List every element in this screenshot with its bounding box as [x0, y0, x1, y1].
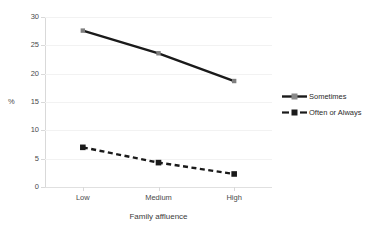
x-tick-mark	[234, 187, 235, 191]
data-point-marker	[232, 79, 236, 83]
legend-item-sometimes[interactable]: Sometimes	[282, 88, 383, 104]
y-tick-label-wrap: 0	[13, 183, 39, 191]
y-tick-label-wrap: 5	[13, 155, 39, 163]
x-tick-label: Low	[53, 193, 113, 202]
x-tick-mark	[83, 187, 84, 191]
y-tick-label: 30	[17, 13, 39, 21]
x-tick-label: High	[204, 193, 264, 202]
legend: Sometimes Often or Always	[282, 88, 383, 120]
y-tick-label-wrap: 30	[13, 13, 39, 21]
y-axis-title: %	[8, 98, 15, 106]
data-point-marker	[156, 160, 162, 166]
y-tick-label: 0	[17, 183, 39, 191]
x-axis-title: Family affluence	[0, 212, 317, 222]
x-tick-label: Medium	[129, 193, 189, 202]
y-tick-mark	[41, 187, 45, 188]
solid-line-marker-icon	[282, 91, 307, 102]
series-line-sometimes	[83, 31, 234, 81]
data-point-marker	[81, 28, 85, 32]
x-tick-mark	[159, 187, 160, 191]
plot-area	[45, 17, 272, 187]
y-tick-label-wrap: 10	[13, 126, 39, 134]
y-tick-label: 10	[17, 126, 39, 134]
y-tick-label-wrap: 15	[13, 98, 39, 106]
y-tick-label: 5	[17, 155, 39, 163]
dashed-line-marker-icon	[282, 107, 307, 118]
y-tick-label-wrap: 25	[13, 41, 39, 49]
data-point-marker	[231, 171, 237, 177]
data-point-marker	[156, 51, 160, 55]
legend-label: Often or Always	[309, 108, 362, 117]
y-tick-label: 20	[17, 70, 39, 78]
y-tick-label-wrap: 20	[13, 70, 39, 78]
data-point-marker	[80, 145, 86, 151]
line-chart: 051015202530 % LowMediumHigh Family affl…	[0, 0, 383, 236]
legend-label: Sometimes	[309, 92, 347, 101]
series-layer	[45, 17, 272, 187]
legend-item-often-or-always[interactable]: Often or Always	[282, 104, 383, 120]
y-tick-label: 25	[17, 41, 39, 49]
y-tick-label: 15	[17, 98, 39, 106]
